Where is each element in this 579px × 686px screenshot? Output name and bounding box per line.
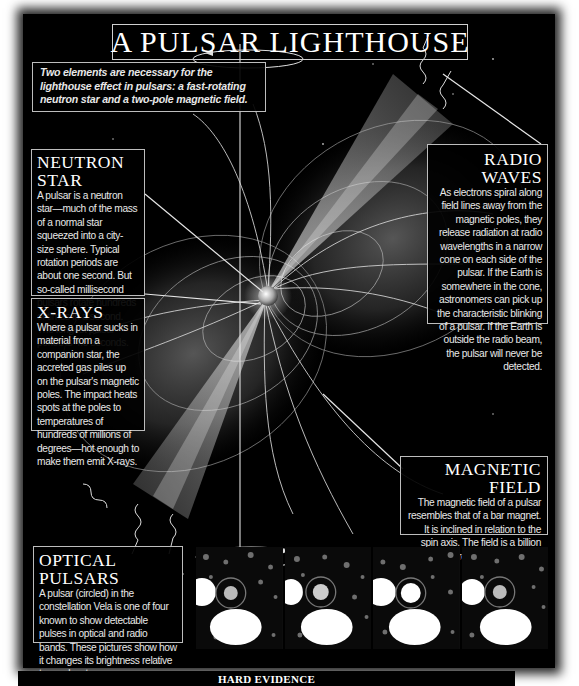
- radio-waves-body: As electrons spiral along field lines aw…: [433, 186, 542, 374]
- optical-pulsars-box: OPTICAL PULSARS A pulsar (circled) in th…: [33, 546, 183, 643]
- vela-photo-1: [196, 547, 283, 649]
- optical-pulsars-heading: OPTICAL PULSARS: [39, 551, 177, 587]
- vela-photo-2: [285, 547, 372, 649]
- magnetic-field-box: MAGNETIC FIELD The magnetic field of a p…: [400, 456, 548, 535]
- intro-box: Two elements are necessary for the light…: [32, 62, 266, 112]
- radio-waves-box: RADIO WAVES As electrons spiral along fi…: [427, 144, 548, 324]
- x-rays-box: X-RAYS Where a pulsar sucks in material …: [31, 298, 145, 431]
- x-rays-body: Where a pulsar sucks in material from a …: [37, 321, 139, 468]
- vela-photo-4: [462, 547, 549, 649]
- magnetic-field-heading: MAGNETIC FIELD: [407, 460, 541, 496]
- page-title: A PULSAR LIGHTHOUSE: [112, 24, 468, 60]
- radio-waves-heading: RADIO WAVES: [433, 150, 542, 186]
- page-title-text: A PULSAR LIGHTHOUSE: [110, 25, 469, 59]
- vela-photo-3: [373, 547, 460, 649]
- intro-text: Two elements are necessary for the light…: [40, 66, 258, 107]
- optical-pulsars-body: A pulsar (circled) in the constellation …: [39, 587, 177, 681]
- neutron-star-heading: NEUTRON STAR: [37, 153, 139, 189]
- neutron-star-box: NEUTRON STAR A pulsar is a neutron star—…: [31, 149, 145, 296]
- vela-pulsar-photo-strip: [196, 547, 548, 649]
- footer-label: HARD EVIDENCE: [218, 673, 315, 685]
- x-rays-heading: X-RAYS: [37, 303, 139, 321]
- footer-bar: HARD EVIDENCE: [18, 671, 515, 686]
